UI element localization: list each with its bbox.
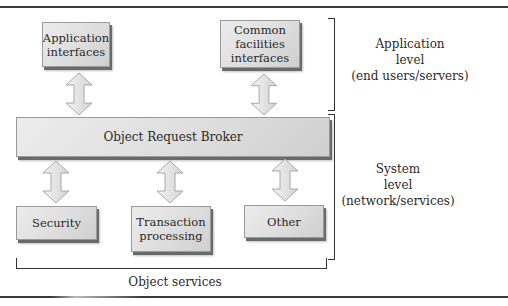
box-label-line: Common	[231, 23, 289, 37]
box-label-line: interfaces	[43, 45, 109, 59]
box-label-line: Other	[267, 215, 301, 229]
label-line: Application	[340, 36, 480, 52]
transaction-processing-box: Transaction processing	[131, 206, 211, 252]
other-box: Other	[244, 205, 324, 238]
double-arrow-icon	[65, 72, 93, 116]
bottom-rule	[0, 296, 508, 298]
top-rule	[0, 6, 508, 8]
object-services-label: Object services	[110, 274, 240, 290]
common-facilities-interfaces-box: Common facilities interfaces	[220, 20, 300, 68]
box-label-line: Security	[32, 216, 81, 230]
box-label-line: Application	[43, 31, 109, 45]
double-arrow-icon	[250, 73, 278, 116]
box-label-line: Transaction	[136, 215, 205, 229]
object-request-broker-bar: Object Request Broker	[16, 117, 330, 157]
application-interfaces-box: Application interfaces	[42, 22, 110, 67]
label-line: (end users/servers)	[340, 68, 480, 84]
double-arrow-icon	[42, 160, 70, 204]
label-line: System	[338, 161, 458, 177]
label-line: (network/services)	[338, 193, 458, 209]
application-level-label: Application level (end users/servers)	[340, 36, 480, 84]
security-box: Security	[16, 206, 97, 240]
box-label-line: interfaces	[231, 51, 289, 65]
label-line: level	[340, 52, 480, 68]
system-level-label: System level (network/services)	[338, 161, 458, 209]
label-line: level	[338, 177, 458, 193]
double-arrow-icon	[156, 160, 184, 204]
double-arrow-icon	[271, 158, 299, 202]
object-services-text: Object services	[128, 275, 221, 289]
system-level-bracket	[328, 114, 335, 260]
orb-label: Object Request Broker	[103, 130, 242, 144]
object-services-bracket	[16, 258, 327, 269]
application-level-bracket	[328, 18, 335, 111]
box-label-line: processing	[136, 229, 205, 243]
box-label-line: facilities	[231, 37, 289, 51]
